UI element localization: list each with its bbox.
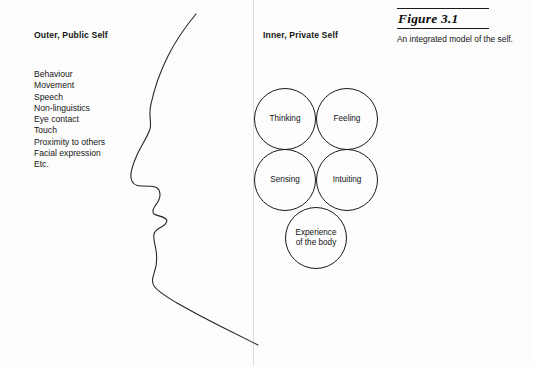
list-item: Behaviour bbox=[34, 69, 105, 80]
list-item: Touch bbox=[34, 125, 105, 136]
list-item: Speech bbox=[34, 92, 105, 103]
node-label-experience-of-the-body: Experience of the body bbox=[296, 228, 337, 248]
outer-self-attribute-list: Behaviour Movement Speech Non-linguistic… bbox=[34, 69, 105, 171]
node-circle-experience-of-the-body: Experience of the body bbox=[285, 207, 347, 269]
list-item: Etc. bbox=[34, 159, 105, 170]
node-circle-sensing: Sensing bbox=[254, 149, 316, 211]
node-label-intuiting: Intuiting bbox=[333, 175, 362, 185]
figure-number: Figure 3.1 bbox=[397, 9, 529, 27]
list-item: Movement bbox=[34, 80, 105, 91]
node-circle-thinking: Thinking bbox=[254, 88, 316, 150]
node-label-thinking: Thinking bbox=[270, 114, 301, 124]
node-label-sensing: Sensing bbox=[270, 175, 300, 185]
list-item: Non-linguistics bbox=[34, 103, 105, 114]
figure-description: An integrated model of the self. bbox=[397, 34, 529, 45]
list-item: Proximity to others bbox=[34, 137, 105, 148]
list-item: Facial expression bbox=[34, 148, 105, 159]
node-circle-intuiting: Intuiting bbox=[316, 149, 378, 211]
inner-self-heading: Inner, Private Self bbox=[263, 30, 338, 40]
figure-caption-block: Figure 3.1 An integrated model of the se… bbox=[397, 8, 529, 45]
outer-self-heading: Outer, Public Self bbox=[34, 30, 108, 40]
node-label-feeling: Feeling bbox=[334, 114, 361, 124]
list-item: Eye contact bbox=[34, 114, 105, 125]
node-circle-feeling: Feeling bbox=[316, 88, 378, 150]
caption-rule-bottom bbox=[397, 28, 489, 29]
figure-page: Outer, Public Self Behaviour Movement Sp… bbox=[0, 0, 533, 366]
